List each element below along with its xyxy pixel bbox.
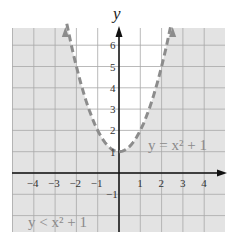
inequality-graph: −4−3−2−11234−1123456 y y = x² + 1 y < x²… — [0, 0, 231, 234]
y-tick-label: 2 — [110, 124, 116, 136]
x-tick-label: 1 — [137, 177, 143, 189]
y-tick-label: 3 — [110, 103, 116, 115]
y-tick-label: 4 — [110, 82, 116, 94]
y-tick-label: 5 — [110, 61, 116, 73]
y-axis-label: y — [111, 4, 121, 23]
y-tick-label: 6 — [110, 39, 116, 51]
x-tick-label: 2 — [159, 177, 165, 189]
y-tick-label: −1 — [106, 188, 118, 200]
inequality-label: y < x² + 1 — [28, 214, 87, 230]
x-tick-label: −2 — [69, 177, 81, 189]
x-tick-label: −4 — [27, 177, 39, 189]
y-tick-label: 1 — [110, 146, 116, 158]
boundary-equation-label: y = x² + 1 — [148, 137, 207, 153]
x-tick-label: −3 — [48, 177, 60, 189]
x-tick-label: 3 — [180, 177, 186, 189]
x-tick-label: −1 — [91, 177, 103, 189]
x-tick-label: 4 — [201, 177, 207, 189]
